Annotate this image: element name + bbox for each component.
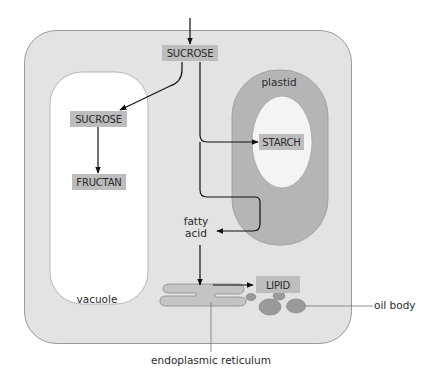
box-sucrose-vacuole: SUCROSE	[70, 111, 127, 127]
label-oil-body: oil body	[374, 299, 416, 311]
label-fatty: fatty	[184, 215, 209, 227]
label-vacuole: vacuole	[77, 293, 118, 305]
cell-diagram: SUCROSE SUCROSE FRUCTAN STARCH LIPID pla…	[0, 0, 431, 380]
box-starch: STARCH	[259, 134, 304, 150]
box-lipid: LIPID	[256, 276, 300, 293]
label-plastid: plastid	[261, 76, 296, 88]
svg-text:LIPID: LIPID	[266, 280, 291, 291]
box-fructan: FRUCTAN	[72, 174, 126, 190]
label-acid: acid	[185, 227, 207, 239]
svg-text:FRUCTAN: FRUCTAN	[76, 177, 121, 188]
box-sucrose-cytosol: SUCROSE	[162, 45, 218, 61]
svg-text:STARCH: STARCH	[262, 137, 300, 148]
svg-text:SUCROSE: SUCROSE	[167, 48, 214, 59]
label-endoplasmic-reticulum: endoplasmic reticulum	[151, 354, 271, 366]
svg-text:SUCROSE: SUCROSE	[75, 114, 122, 125]
